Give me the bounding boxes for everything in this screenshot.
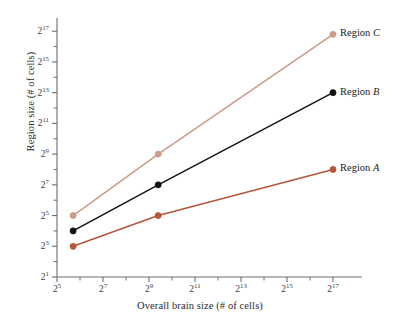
data-point-region-b <box>70 228 76 234</box>
series-line-region-c <box>73 34 333 215</box>
data-point-region-b <box>155 182 161 188</box>
data-point-region-a <box>70 243 76 249</box>
series-group <box>70 31 336 249</box>
axes-group <box>52 18 362 282</box>
data-point-region-a <box>330 166 336 172</box>
series-line-region-b <box>73 93 333 231</box>
data-point-region-b <box>330 90 336 96</box>
chart-figure: Region size (# of cells) Overall brain s… <box>0 0 399 323</box>
data-point-region-c <box>330 31 336 37</box>
data-point-region-c <box>70 212 76 218</box>
data-point-region-a <box>155 212 161 218</box>
series-line-region-a <box>73 169 333 246</box>
plot-area <box>0 0 399 323</box>
data-point-region-c <box>155 151 161 157</box>
